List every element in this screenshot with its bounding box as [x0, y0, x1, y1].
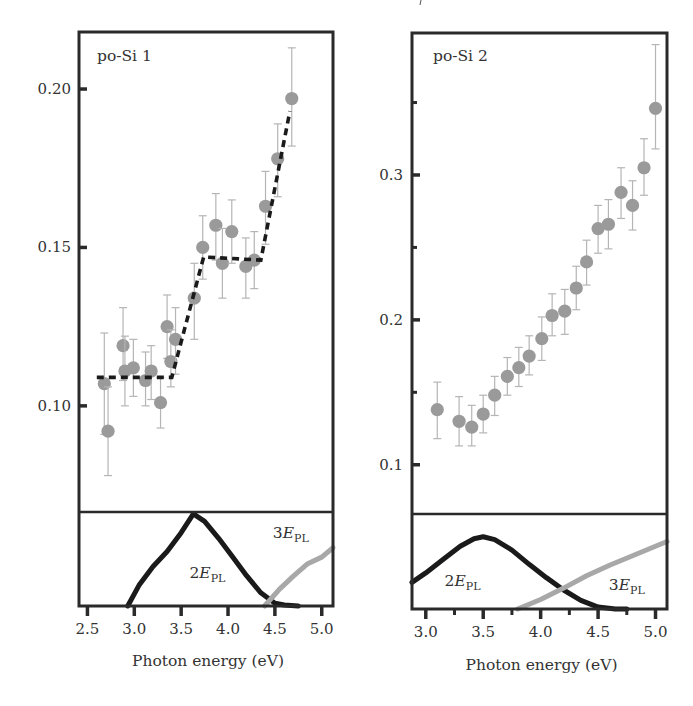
data-point — [209, 194, 222, 261]
data-point — [488, 376, 501, 415]
panel-label: po-Si 2 — [433, 47, 488, 65]
data-marker — [570, 281, 583, 294]
data-marker — [161, 320, 174, 333]
data-point — [546, 294, 559, 336]
y-tick-label: 0.10 — [38, 397, 71, 415]
annotation-symbol: E — [198, 564, 211, 582]
data-marker — [602, 218, 615, 231]
data-point — [570, 266, 583, 309]
annotation-number: 3 — [609, 576, 619, 594]
curve-annotation: 3EPL — [273, 524, 310, 545]
data-marker — [626, 199, 639, 212]
annotation-symbol: E — [282, 524, 295, 542]
annotation-subscript: PL — [294, 532, 309, 545]
y-tick-label: 0.15 — [38, 238, 71, 256]
data-marker — [546, 309, 559, 322]
data-point — [98, 333, 111, 434]
annotation-number: 2 — [445, 572, 455, 590]
data-marker — [431, 403, 444, 416]
data-point — [225, 200, 238, 263]
data-marker — [614, 186, 627, 199]
data-point — [626, 181, 639, 230]
data-point — [477, 395, 490, 433]
data-point — [216, 228, 229, 298]
data-marker — [535, 332, 548, 345]
data-point — [101, 387, 114, 476]
data-marker — [637, 161, 650, 174]
x-axis-label: Photon energy (eV) — [465, 656, 617, 674]
data-marker — [523, 349, 536, 362]
annotation-symbol: E — [618, 576, 631, 594]
data-marker — [501, 370, 514, 383]
data-point — [614, 168, 627, 219]
top-crop-mark — [420, 0, 421, 5]
annotation-subscript: PL — [211, 572, 226, 585]
figure: 0.100.150.202.53.03.54.04.55.0Photon ene… — [0, 0, 693, 706]
data-marker — [101, 425, 114, 438]
x-tick-label: 4.0 — [529, 623, 553, 641]
y-tick-label: 0.2 — [379, 311, 403, 329]
data-marker — [488, 389, 501, 402]
annotation-subscript: PL — [630, 584, 645, 597]
curve-annotation: 2EPL — [445, 572, 482, 593]
x-tick-label: 4.5 — [586, 623, 610, 641]
data-marker — [225, 225, 238, 238]
x-tick-label: 5.0 — [644, 623, 668, 641]
x-tick-label: 3.0 — [122, 620, 146, 638]
annotation-symbol: E — [453, 572, 466, 590]
data-point — [637, 139, 650, 196]
data-marker — [116, 339, 129, 352]
y-tick-label: 0.1 — [379, 456, 403, 474]
data-marker — [196, 241, 209, 254]
data-marker — [127, 361, 140, 374]
data-marker — [580, 255, 593, 268]
annotation-number: 2 — [189, 564, 199, 582]
x-tick-label: 2.5 — [76, 620, 100, 638]
data-point — [535, 317, 548, 360]
data-point — [145, 346, 158, 400]
data-marker — [649, 102, 662, 115]
data-marker — [154, 396, 167, 409]
dashed-fit-line — [97, 111, 290, 377]
data-point — [580, 240, 593, 285]
y-tick-label: 0.3 — [379, 166, 403, 184]
annotation-subscript: PL — [466, 580, 481, 593]
x-tick-label: 3.0 — [414, 623, 438, 641]
x-axis-label: Photon energy (eV) — [132, 652, 284, 670]
curve-annotation: 3EPL — [609, 576, 646, 597]
x-tick-label: 3.5 — [471, 623, 495, 641]
data-point — [465, 405, 478, 446]
data-point — [501, 358, 514, 396]
curve-3e-pl — [265, 548, 333, 606]
data-point — [431, 382, 444, 439]
data-marker — [465, 420, 478, 433]
curve-annotation: 2EPL — [189, 564, 226, 585]
data-point — [602, 200, 615, 249]
data-marker — [452, 415, 465, 428]
panel-label: po-Si 1 — [97, 47, 152, 65]
data-point — [271, 124, 284, 197]
data-marker — [285, 92, 298, 105]
panel-po-si-1: 0.100.150.202.53.03.54.04.55.0Photon ene… — [38, 32, 334, 670]
data-point — [154, 377, 167, 428]
data-point — [161, 295, 174, 358]
annotation-number: 3 — [273, 524, 283, 542]
data-marker — [477, 407, 490, 420]
data-marker — [558, 305, 571, 318]
data-point — [196, 216, 209, 279]
x-tick-label: 5.0 — [310, 620, 334, 638]
x-tick-label: 4.5 — [263, 620, 287, 638]
data-point — [259, 171, 272, 244]
data-point — [591, 205, 604, 253]
x-tick-label: 3.5 — [169, 620, 193, 638]
panel-po-si-2: 0.10.20.33.03.54.04.55.0Photon energy (e… — [379, 33, 667, 674]
data-point — [558, 289, 571, 334]
data-marker — [512, 361, 525, 374]
y-tick-label: 0.20 — [38, 80, 71, 98]
data-point — [452, 397, 465, 446]
plot-frame — [412, 33, 667, 609]
data-point — [649, 45, 662, 149]
data-marker — [209, 219, 222, 232]
x-tick-label: 4.0 — [216, 620, 240, 638]
